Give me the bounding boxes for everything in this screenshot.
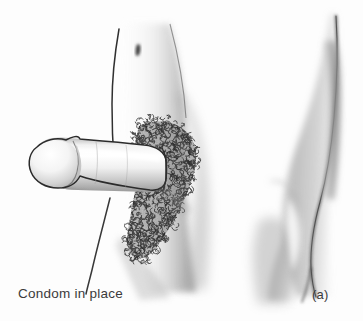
right-panel-silhouette-figure — [253, 14, 340, 304]
panel-letter-label: (a) — [312, 288, 329, 301]
thigh-contour — [86, 198, 110, 294]
illustration-canvas — [0, 0, 363, 321]
left-panel-detailed-figure — [28, 22, 210, 300]
caption-condom-in-place: Condom in place — [18, 287, 123, 301]
illustration-figure: Condom in place (a) — [0, 0, 363, 321]
